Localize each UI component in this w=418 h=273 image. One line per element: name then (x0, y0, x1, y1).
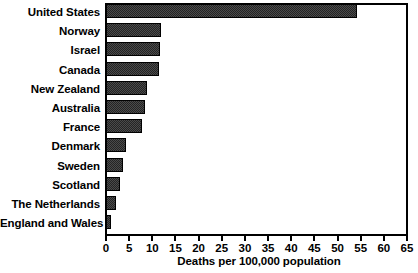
x-tick (313, 236, 315, 241)
bar (106, 4, 357, 18)
bar-row (106, 176, 407, 195)
x-tick-label: 60 (377, 242, 390, 254)
x-tick-label: 5 (126, 242, 132, 254)
category-label: United States (0, 3, 103, 22)
bar-row (106, 118, 407, 137)
x-tick (105, 236, 107, 241)
category-label: Israel (0, 41, 103, 60)
x-tick-label: 65 (401, 242, 414, 254)
x-tick-label: 0 (103, 242, 109, 254)
bar (106, 42, 160, 56)
category-label: Sweden (0, 157, 103, 176)
bar-row (106, 214, 407, 233)
x-tick-label: 40 (285, 242, 298, 254)
x-tick (128, 236, 130, 241)
bar-row (106, 3, 407, 22)
bar (106, 81, 147, 95)
bar (106, 158, 123, 172)
bar-row (106, 137, 407, 156)
bar-chart-figure: United States Norway Israel Canada New Z… (0, 0, 418, 273)
bar-row (106, 80, 407, 99)
bar (106, 215, 111, 229)
x-tick (221, 236, 223, 241)
bar (106, 23, 161, 37)
x-tick-label: 15 (169, 242, 182, 254)
bar (106, 138, 126, 152)
x-tick (406, 236, 408, 241)
x-tick (244, 236, 246, 241)
category-axis-labels: United States Norway Israel Canada New Z… (0, 3, 103, 235)
x-tick-label: 35 (262, 242, 275, 254)
category-label: New Zealand (0, 80, 103, 99)
x-tick (290, 236, 292, 241)
x-tick (174, 236, 176, 241)
bar (106, 62, 159, 76)
category-label: Canada (0, 61, 103, 80)
x-tick (151, 236, 153, 241)
x-tick (198, 236, 200, 241)
x-tick-label: 30 (239, 242, 252, 254)
bar (106, 119, 142, 133)
x-tick-label: 25 (215, 242, 228, 254)
x-axis-title: Deaths per 100,000 population (0, 255, 418, 267)
bar (106, 177, 120, 191)
bar-series (106, 3, 407, 235)
x-tick (267, 236, 269, 241)
bar-row (106, 157, 407, 176)
category-label: Scotland (0, 176, 103, 195)
bar-row (106, 195, 407, 214)
x-tick (360, 236, 362, 241)
bar-row (106, 41, 407, 60)
x-tick (337, 236, 339, 241)
plot-area: 05101520253035404550556065 (106, 3, 407, 235)
category-label: England and Wales (0, 214, 103, 233)
x-tick (383, 236, 385, 241)
x-tick-label: 45 (308, 242, 321, 254)
x-tick-label: 50 (331, 242, 344, 254)
bar-row (106, 99, 407, 118)
x-tick-label: 20 (192, 242, 205, 254)
x-tick-label: 10 (146, 242, 159, 254)
bar (106, 100, 145, 114)
bar-row (106, 22, 407, 41)
x-axis-title-text: Deaths per 100,000 population (177, 255, 340, 267)
category-label: Denmark (0, 137, 103, 156)
category-label: France (0, 118, 103, 137)
category-label: Norway (0, 22, 103, 41)
category-label: Australia (0, 99, 103, 118)
bar-row (106, 61, 407, 80)
x-tick-label: 55 (354, 242, 367, 254)
bar (106, 196, 116, 210)
category-label: The Netherlands (0, 195, 103, 214)
